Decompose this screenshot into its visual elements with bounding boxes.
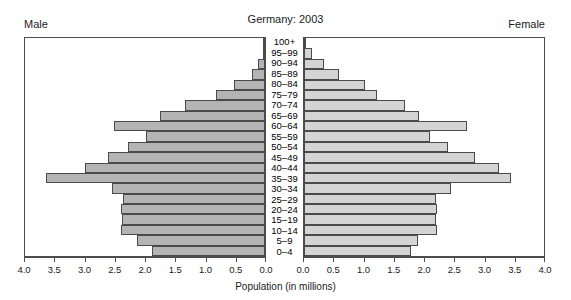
bar-row (25, 183, 265, 193)
male-bar-95-99 (263, 48, 265, 58)
bar-row (304, 214, 544, 224)
male-bar-30-34 (112, 183, 265, 193)
age-group-label: 0–4 (266, 246, 303, 256)
female-bar-35-39 (304, 173, 511, 183)
bar-row (25, 90, 265, 100)
male-bar-80-84 (234, 80, 265, 90)
bar-row (304, 173, 544, 183)
bar-row (304, 183, 544, 193)
axis-tick-label: 1.5 (169, 264, 182, 275)
axis-tick-label: 4.0 (17, 264, 30, 275)
bar-row (304, 152, 544, 162)
age-group-label: 40–44 (266, 163, 303, 173)
axis-tick (85, 257, 86, 262)
axis-tick-label: 1.0 (199, 264, 212, 275)
bar-row (25, 80, 265, 90)
age-group-label: 5–9 (266, 236, 303, 246)
axis-tick (454, 257, 455, 262)
female-bar-85-89 (304, 69, 339, 79)
male-bar-rows (25, 38, 265, 256)
axis-tick (175, 257, 176, 262)
age-group-label: 20–24 (266, 205, 303, 215)
female-bar-20-24 (304, 204, 437, 214)
female-bar-60-64 (304, 121, 467, 131)
bar-row (304, 235, 544, 245)
age-group-label: 10–14 (266, 225, 303, 235)
female-bar-100+ (304, 38, 306, 48)
bar-row (25, 131, 265, 141)
population-pyramid-figure: Male Germany: 2003 Female 100+95–9990–94… (0, 0, 571, 300)
bar-row (304, 246, 544, 256)
bar-row (304, 38, 544, 48)
axis-tick (333, 257, 334, 262)
axis-tick (515, 257, 516, 262)
bar-row (304, 225, 544, 235)
bar-row (25, 173, 265, 183)
bar-row (304, 69, 544, 79)
female-bar-25-29 (304, 194, 436, 204)
x-axis-label: Population (in millions) (0, 281, 571, 292)
axis-tick-label: 2.5 (448, 264, 461, 275)
female-bar-0-4 (304, 246, 411, 256)
female-bar-65-69 (304, 111, 419, 121)
age-group-label: 80–84 (266, 79, 303, 89)
female-bar-95-99 (304, 48, 312, 58)
axis-tick (24, 257, 25, 262)
bar-row (25, 194, 265, 204)
age-group-label: 15–19 (266, 215, 303, 225)
male-x-axis (24, 257, 266, 263)
female-bar-15-19 (304, 214, 436, 224)
bar-row (25, 235, 265, 245)
female-plot-panel (303, 37, 545, 257)
axis-tick-label: 2.5 (108, 264, 121, 275)
female-bar-rows (304, 38, 544, 256)
axis-tick (54, 257, 55, 262)
bar-row (304, 163, 544, 173)
female-x-axis (303, 257, 545, 263)
age-group-label: 50–54 (266, 142, 303, 152)
axis-tick (115, 257, 116, 262)
age-group-label: 95–99 (266, 47, 303, 57)
male-bar-60-64 (114, 121, 265, 131)
axis-tick-label: 2.0 (138, 264, 151, 275)
bar-row (25, 152, 265, 162)
male-bar-0-4 (152, 246, 265, 256)
male-bar-25-29 (123, 194, 265, 204)
bar-row (304, 80, 544, 90)
female-bar-40-44 (304, 163, 499, 173)
male-bar-35-39 (46, 173, 265, 183)
axis-tick-label: 0.0 (259, 264, 272, 275)
axis-tick-label: 0.5 (229, 264, 242, 275)
bar-row (25, 69, 265, 79)
bar-row (304, 194, 544, 204)
female-bar-75-79 (304, 90, 377, 100)
female-bar-10-14 (304, 225, 437, 235)
male-bar-75-79 (216, 90, 265, 100)
bar-row (25, 204, 265, 214)
bar-row (304, 111, 544, 121)
axis-tick-label: 4.0 (538, 264, 551, 275)
axis-tick-label: 0.5 (327, 264, 340, 275)
male-bar-100+ (263, 38, 265, 48)
age-group-label: 35–39 (266, 173, 303, 183)
male-bar-50-54 (128, 142, 265, 152)
male-plot-panel (24, 37, 266, 257)
axis-tick-label: 2.0 (417, 264, 430, 275)
bar-row (25, 48, 265, 58)
bar-row (25, 163, 265, 173)
male-bar-40-44 (85, 163, 265, 173)
female-bar-80-84 (304, 80, 365, 90)
male-bar-70-74 (185, 100, 265, 110)
age-group-label: 85–89 (266, 68, 303, 78)
axis-tick-label: 1.0 (357, 264, 370, 275)
axis-tick (206, 257, 207, 262)
male-bar-5-9 (137, 235, 265, 245)
male-bar-20-24 (121, 204, 265, 214)
bar-row (25, 121, 265, 131)
axis-tick (364, 257, 365, 262)
male-bar-10-14 (121, 225, 265, 235)
axis-tick-label: 3.5 (508, 264, 521, 275)
age-group-label: 25–29 (266, 194, 303, 204)
axis-tick (145, 257, 146, 262)
age-group-label: 70–74 (266, 100, 303, 110)
